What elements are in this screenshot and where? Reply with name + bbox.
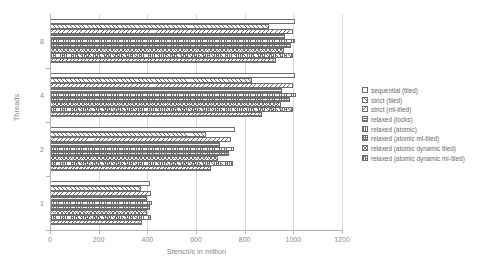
legend-item[interactable]: strict (ml-tiled) <box>362 105 480 114</box>
x-tick <box>99 230 100 234</box>
x-tick-label: 800 <box>239 236 251 243</box>
y-tick-label: 4 <box>30 92 44 99</box>
y-tick <box>46 68 50 69</box>
x-tick-label: 600 <box>190 236 202 243</box>
bar <box>50 220 142 225</box>
x-tick <box>245 230 246 234</box>
y-axis-title: Threads <box>12 78 21 138</box>
legend-swatch-icon <box>362 135 368 141</box>
legend-item[interactable]: relaxed (atomic dynamic ml-tiled) <box>362 154 480 163</box>
legend-item-label: relaxed (atomic ml-tiled) <box>371 134 480 143</box>
x-tick <box>196 230 197 234</box>
bar-chart: 020040060080010001200 1248 Stencil/s in … <box>0 0 482 269</box>
gridline <box>293 14 294 230</box>
legend-swatch-icon <box>362 145 368 151</box>
x-tick <box>342 230 343 234</box>
legend-swatch-icon <box>362 106 368 112</box>
legend-item[interactable]: relaxed (atomic dynamic tiled) <box>362 144 480 153</box>
bar <box>50 166 211 171</box>
y-tick-label: 2 <box>30 146 44 153</box>
legend-swatch-icon <box>362 116 368 122</box>
legend-swatch-icon <box>362 87 368 93</box>
y-axis-line <box>50 14 51 231</box>
x-tick-label: 1000 <box>286 236 302 243</box>
legend-item[interactable]: strict (tiled) <box>362 96 480 105</box>
legend-item-label: strict (ml-tiled) <box>371 105 480 114</box>
legend-item-label: strict (tiled) <box>371 96 480 105</box>
legend-item-label: relaxed (atomic) <box>371 125 480 134</box>
x-tick <box>293 230 294 234</box>
y-tick <box>46 176 50 177</box>
x-axis-title: Stencil/s in million <box>50 247 343 256</box>
bar <box>50 58 276 63</box>
y-tick <box>46 230 50 231</box>
legend-item-label: relaxed (atomic dynamic tiled) <box>371 144 480 153</box>
x-tick-label: 0 <box>48 236 52 243</box>
x-tick-label: 1200 <box>334 236 350 243</box>
y-tick-label: 1 <box>30 200 44 207</box>
plot-area <box>50 14 342 230</box>
legend: sequential (tiled)strict (tiled)strict (… <box>362 86 480 164</box>
legend-item-label: relaxed (atomic dynamic ml-tiled) <box>371 154 480 163</box>
legend-swatch-icon <box>362 155 368 161</box>
legend-item[interactable]: relaxed (locks) <box>362 115 480 124</box>
gridline <box>342 14 343 230</box>
legend-swatch-icon <box>362 126 368 132</box>
bar <box>50 112 262 117</box>
legend-item-label: relaxed (locks) <box>371 115 480 124</box>
x-tick-label: 400 <box>141 236 153 243</box>
legend-item[interactable]: sequential (tiled) <box>362 86 480 95</box>
legend-item-label: sequential (tiled) <box>371 86 480 95</box>
legend-item[interactable]: relaxed (atomic) <box>362 125 480 134</box>
x-tick <box>147 230 148 234</box>
x-tick-label: 200 <box>93 236 105 243</box>
y-tick-label: 8 <box>30 38 44 45</box>
legend-item[interactable]: relaxed (atomic ml-tiled) <box>362 134 480 143</box>
x-tick <box>50 230 51 234</box>
y-tick <box>46 122 50 123</box>
legend-swatch-icon <box>362 97 368 103</box>
